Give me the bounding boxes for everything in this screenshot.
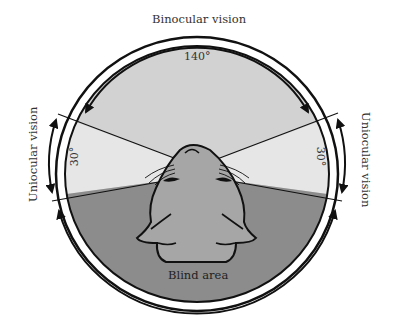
- binocular-angle: 140°: [184, 50, 211, 63]
- binocular-vision-label: Binocular vision: [152, 12, 246, 26]
- blind-area-label: Blind area: [168, 268, 228, 282]
- uniocular-vision-label-right: Uniocular vision: [359, 112, 373, 202]
- uniocular-angle-right: 30°: [314, 147, 327, 167]
- uniocular-angle-left: 30°: [68, 147, 81, 167]
- uniocular-vision-label-left: Uniocular vision: [26, 112, 40, 202]
